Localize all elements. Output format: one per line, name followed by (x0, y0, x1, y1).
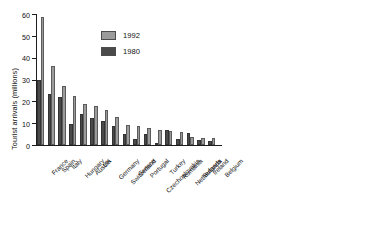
bar-1992 (126, 125, 130, 145)
bar-1992 (147, 128, 151, 145)
bar-group (197, 14, 208, 145)
x-axis-category-labels: FranceSpainItalyHungaryAustriaUKGermanyS… (37, 146, 222, 226)
y-tick (32, 123, 36, 124)
bar-1992 (94, 106, 98, 145)
tourist-arrivals-figure: Tourist arrivals (millions) 010203040506… (0, 0, 382, 228)
bar-1992 (169, 131, 173, 145)
legend-swatch-1980 (101, 47, 116, 56)
y-tick (32, 14, 36, 15)
y-tick-label: 40 (22, 55, 30, 62)
bar-1992 (190, 137, 194, 145)
category-label-wrap: UK (99, 149, 108, 167)
y-tick-label: 30 (22, 77, 30, 84)
legend-label-1992: 1992 (123, 32, 140, 40)
y-tick (32, 80, 36, 81)
bar-1992 (62, 86, 66, 145)
legend-label-1980: 1980 (123, 48, 140, 56)
bar-1992 (115, 117, 119, 145)
bar-1992 (41, 17, 45, 145)
bar-1992 (105, 110, 109, 145)
y-tick (32, 145, 36, 146)
legend-item: 1992 (101, 29, 167, 42)
bar-group (176, 14, 187, 145)
y-tick (32, 36, 36, 37)
y-tick-label: 0 (26, 142, 30, 149)
y-tick-label: 50 (22, 33, 30, 40)
bar-group (48, 14, 59, 145)
bar-1992 (73, 96, 77, 145)
bar-group (208, 14, 219, 145)
y-tick (32, 101, 36, 102)
bar-1992 (83, 104, 87, 145)
bar-1992 (180, 132, 184, 145)
bar-group (80, 14, 91, 145)
bar-1992 (158, 130, 162, 145)
y-tick-label: 20 (22, 99, 30, 106)
y-axis-label: Tourist arrivals (millions) (10, 68, 19, 150)
legend: 1992 1980 (101, 29, 167, 61)
chart-panel-europe: Tourist arrivals (millions) 010203040506… (0, 0, 235, 228)
bar-1992 (201, 138, 205, 145)
bar-group (58, 14, 69, 145)
bar-group (37, 14, 48, 145)
bar-1992 (212, 138, 216, 145)
y-tick-label: 10 (22, 121, 30, 128)
bar-group (69, 14, 80, 145)
bar-1992 (51, 66, 55, 145)
y-tick (32, 58, 36, 59)
legend-swatch-1992 (101, 31, 116, 40)
bar-1992 (137, 126, 141, 145)
chart-panel-americas-asia: 0102030405060 USAMexicoCanadaChinaHong K… (235, 0, 382, 228)
y-tick-label: 60 (22, 11, 30, 18)
bar-group (90, 14, 101, 145)
bar-group (187, 14, 198, 145)
legend-item: 1980 (101, 45, 167, 58)
